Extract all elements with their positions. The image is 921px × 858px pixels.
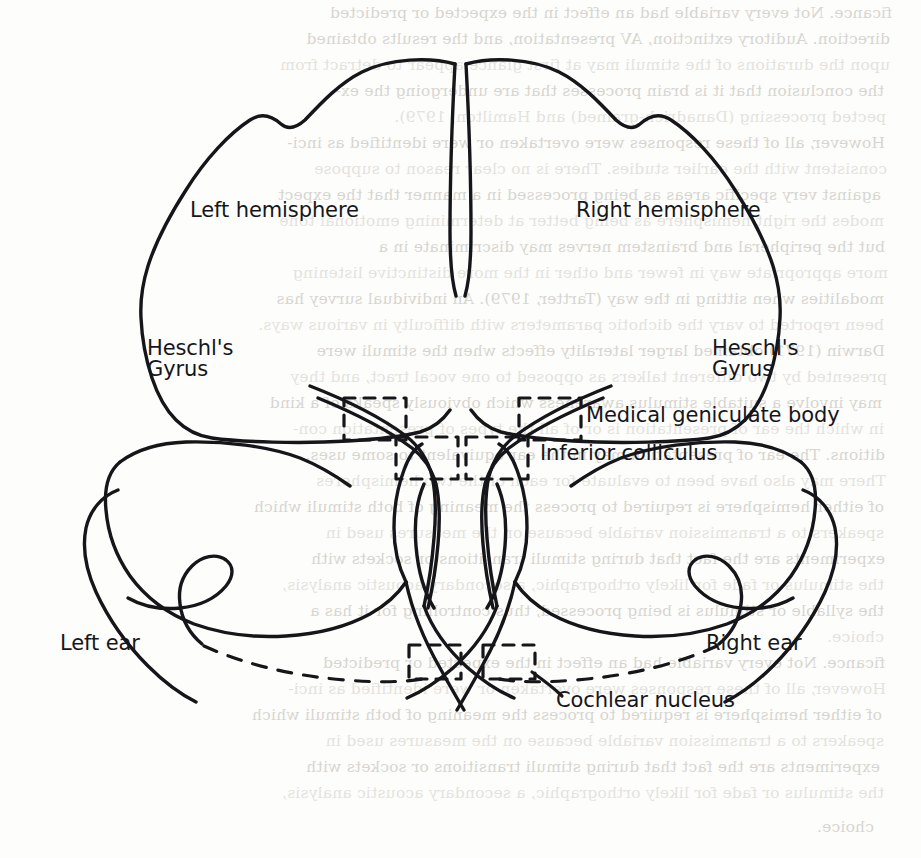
label-left-ear: Left ear (60, 633, 140, 655)
longitudinal-fissure-left (450, 64, 456, 296)
left-temporal-upper-edge (120, 442, 350, 486)
label-heschls-gyrus-right: Heschl's Gyrus (712, 338, 798, 380)
longitudinal-fissure-right (465, 64, 471, 296)
heschls-gyrus-right-line1: Heschl's (712, 338, 798, 359)
right-ear-afferent-dashed (493, 646, 717, 682)
label-right-hemisphere: Right hemisphere (576, 200, 761, 222)
label-left-hemisphere: Left hemisphere (190, 200, 359, 222)
right-hemisphere-outline (466, 60, 780, 443)
heschls-gyrus-left-line1: Heschl's (147, 338, 233, 359)
auditory-radiation-left-a (310, 386, 435, 606)
heschls-gyrus-right-line2: Gyrus (712, 359, 798, 380)
label-medial-geniculate-body: Medical geniculate body (586, 405, 840, 427)
label-heschls-gyrus-left: Heschl's Gyrus (147, 338, 233, 380)
label-cochlear-nucleus: Cochlear nucleus (556, 690, 735, 712)
auditory-pathway-diagram (0, 0, 921, 858)
left-temporal-lobe (106, 462, 406, 637)
left-ear-afferent-dashed (204, 646, 428, 682)
heschls-gyrus-left-line2: Gyrus (147, 359, 233, 380)
label-inferior-colliculus: Inferior colliculus (540, 443, 717, 465)
label-right-ear: Right ear (706, 633, 802, 655)
scanned-page: ficance. Not every variable had an effec… (0, 0, 921, 858)
left-hemisphere-outline (141, 60, 455, 443)
right-temporal-lobe (515, 462, 815, 637)
